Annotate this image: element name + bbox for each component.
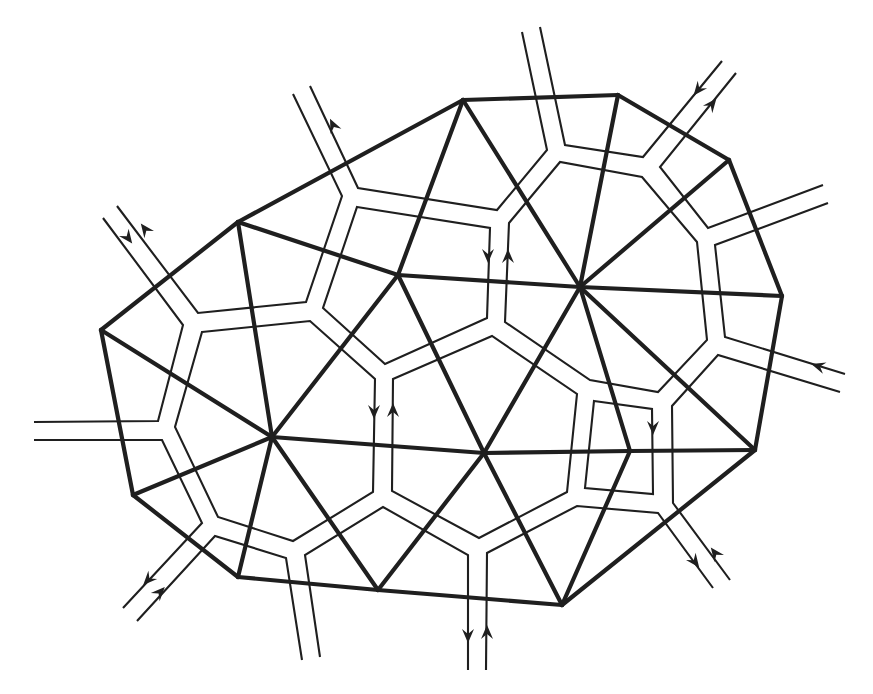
ribbon-line-stub-ne: [660, 73, 823, 228]
edge-L-A: [398, 100, 463, 275]
edge-K-N: [238, 222, 272, 437]
triangulation-edges: [101, 95, 782, 605]
edge-P-F: [562, 451, 630, 605]
ribbon-line-stub-sw: [137, 536, 302, 660]
ribbon-line-stub-west: [34, 440, 202, 608]
ribbon-line-stub-east-lower: [672, 355, 840, 580]
edge-L-O: [398, 275, 484, 453]
edge-M-D: [580, 287, 782, 296]
edge-P-E: [630, 450, 755, 451]
ribbon-line-stub-tl-outer: [34, 218, 183, 422]
edge-M-O: [484, 287, 580, 453]
edge-F-G: [378, 590, 562, 605]
edge-O-P: [484, 451, 630, 453]
ribbon-line-stub-south: [305, 507, 468, 670]
edge-E-F: [562, 450, 755, 605]
diagram-canvas: [0, 0, 873, 694]
arrow-tl-out-icon: [141, 223, 154, 238]
ribbon-line-loop-m: [505, 162, 707, 392]
edge-A-B: [463, 95, 618, 100]
edge-C-D: [729, 160, 782, 296]
edge-N-H: [238, 437, 272, 577]
ribbon-graph-lines: [34, 27, 845, 670]
triangulation-ribbon-diagram: [0, 0, 873, 694]
edge-K-A: [238, 100, 463, 222]
edge-H-I: [133, 495, 238, 577]
edge-J-K: [101, 222, 238, 330]
ribbon-line-stub-se: [486, 506, 713, 670]
arrow-l-down-icon: [482, 249, 494, 263]
arrow-se-in-icon: [711, 547, 724, 562]
edge-N-O: [272, 437, 484, 453]
edge-L-N: [272, 275, 398, 437]
ribbon-line-loop-o: [392, 336, 577, 538]
edge-I-J: [101, 330, 133, 495]
